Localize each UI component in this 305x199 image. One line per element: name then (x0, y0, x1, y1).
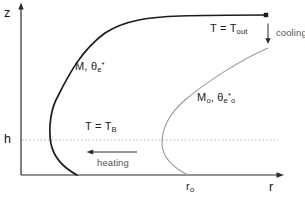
m0-label-postsub: o (231, 96, 235, 105)
r-axis-label: r (269, 181, 273, 194)
m0-label-mid: , θ (211, 91, 224, 103)
r0-label: ro (186, 181, 194, 194)
heating-arrowhead-icon (87, 149, 94, 154)
t-b-label-sub: B (112, 125, 117, 134)
t-out-label: T = Tout (210, 23, 248, 36)
m0-label: Mo, θe*o (197, 92, 235, 105)
m0-curve (162, 48, 268, 175)
z-axis-label: z (4, 7, 10, 20)
m-label-sup: * (102, 60, 105, 69)
diagram-stage: z h T = Tout cooling M, θe* Mo, θe*o T =… (0, 0, 305, 199)
m-label-main: M, θ (75, 60, 97, 72)
cooling-arrowhead-icon (265, 38, 270, 44)
heating-label: heating (97, 158, 129, 168)
t-b-label-main: T = T (85, 120, 112, 132)
r0-label-sub: o (190, 185, 194, 194)
z-axis-arrowhead-icon (18, 3, 23, 10)
diagram-canvas (0, 0, 305, 199)
t-out-label-sub: out (237, 27, 248, 36)
m-label: M, θe* (75, 61, 105, 74)
r-axis-arrowhead-icon (277, 172, 285, 178)
m-curve-end-marker (264, 13, 268, 17)
m0-label-main: M (197, 91, 206, 103)
t-b-label: T = TB (85, 121, 117, 134)
cooling-label: cooling (276, 28, 305, 38)
t-out-label-main: T = T (210, 22, 237, 34)
h-label: h (4, 133, 11, 146)
